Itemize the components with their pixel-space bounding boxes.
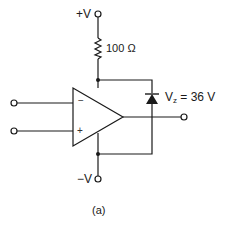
resistor-value-label: 100 Ω bbox=[106, 43, 136, 54]
terminal-inverting-input bbox=[11, 100, 17, 106]
junction-dot-top bbox=[96, 78, 100, 82]
positive-supply-label: +V bbox=[76, 8, 91, 20]
wire-zener-to-bottom bbox=[98, 104, 152, 154]
resistor-icon bbox=[95, 38, 101, 59]
inverting-sign: − bbox=[78, 96, 84, 106]
negative-supply-label: −V bbox=[77, 173, 92, 185]
figure-caption: (a) bbox=[92, 205, 105, 216]
junction-dot-bottom bbox=[96, 152, 100, 156]
terminal-output bbox=[181, 114, 187, 120]
terminal-noninverting-input bbox=[11, 128, 17, 134]
terminal-negative-supply bbox=[95, 176, 101, 182]
noninverting-sign: + bbox=[77, 126, 83, 136]
circuit-schematic bbox=[0, 0, 226, 234]
zener-label-value: = 36 V bbox=[177, 90, 215, 104]
zener-voltage-label: Vz = 36 V bbox=[165, 91, 215, 105]
zener-label-prefix: V bbox=[165, 90, 173, 104]
wire-top-to-zener bbox=[98, 80, 152, 93]
zener-diode-icon bbox=[145, 94, 159, 104]
circuit-diagram: +V 100 Ω Vz = 36 V − + −V (a) bbox=[0, 0, 226, 234]
terminal-positive-supply bbox=[95, 11, 101, 17]
